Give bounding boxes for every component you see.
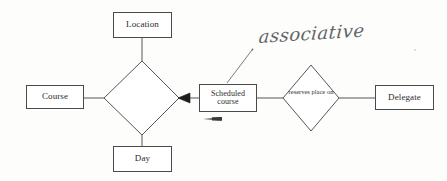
entity-delegate[interactable]: Delegate: [375, 85, 434, 110]
entity-scheduled-course-label: Scheduled course: [211, 90, 245, 107]
relationship-diamond-reserves: [283, 65, 339, 131]
entity-course[interactable]: Course: [26, 85, 84, 109]
relationship-diamond-central: [104, 61, 179, 135]
annotation-leader-line: [227, 50, 252, 83]
entity-course-label: Course: [42, 92, 68, 101]
entity-delegate-label: Delegate: [388, 93, 421, 102]
arrowhead-into-central-diamond: [178, 93, 190, 103]
entity-location[interactable]: Location: [113, 12, 172, 38]
scan-speck: [414, 49, 416, 51]
annotation-leader-dot: [252, 49, 254, 51]
entity-scheduled-course-label-line2: course: [211, 98, 245, 106]
entity-scheduled-course[interactable]: Scheduled course: [199, 84, 257, 112]
hand-arrow-below-scheduled: [203, 117, 222, 121]
er-diagram-canvas: Location Course Day Scheduled course Del…: [0, 0, 447, 181]
entity-day-label: Day: [135, 154, 150, 163]
entity-location-label: Location: [126, 20, 159, 29]
entity-day[interactable]: Day: [113, 146, 172, 172]
